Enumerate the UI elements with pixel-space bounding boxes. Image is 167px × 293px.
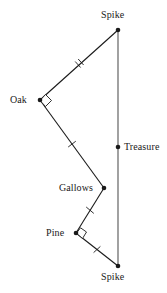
vertex-label-spike-top: Spike [101, 9, 124, 20]
vertex-label-pine: Pine [46, 227, 64, 238]
vertex-dot-pine [74, 231, 79, 236]
vertex-dot-spike-bottom [116, 264, 121, 269]
tick-mark-spike-top-to-oak [75, 59, 83, 68]
tick-mark-oak-to-gallows [68, 141, 76, 147]
vertex-label-oak: Oak [10, 94, 27, 105]
vertex-dot-treasure [116, 145, 121, 150]
vertex-dot-spike-top [116, 28, 121, 33]
segment-spike-top-to-oak [40, 30, 118, 100]
vertex-dot-gallows [102, 186, 107, 191]
vertex-label-gallows: Gallows [59, 182, 93, 193]
treasure-map-diagram: Spike Oak Treasure Gallows Pine Spike [0, 0, 167, 293]
vertex-dot-oak [38, 98, 43, 103]
vertex-label-treasure: Treasure [124, 141, 159, 152]
tick-mark-gallows-to-pine [86, 207, 94, 213]
vertex-label-spike-bottom: Spike [101, 271, 124, 282]
